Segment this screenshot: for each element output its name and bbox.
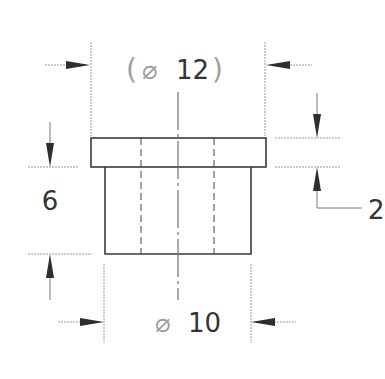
diameter-symbol: ⌀ [142,55,158,85]
arrow-left-icon [266,61,290,69]
arrow-down-icon [46,143,54,167]
flange-diameter-value: 12 [176,55,209,85]
open-paren: ( [126,53,137,86]
leader-line [317,190,362,208]
body-height-value: 6 [42,186,59,216]
arrow-left-icon [251,318,275,326]
arrow-right-icon [80,318,104,326]
close-paren: ) [212,53,223,86]
body-diameter-value: 10 [188,308,221,338]
arrow-down-icon [313,114,321,138]
arrow-right-icon [66,61,90,69]
arrow-up-icon [46,254,54,278]
dimension-body-diameter: ⌀ 10 [58,264,296,343]
diameter-symbol: ⌀ [155,308,171,338]
arrow-up-icon [313,167,321,191]
dimension-flange-thickness: 2 [275,93,385,225]
flange-thickness-value: 2 [368,195,385,225]
technical-drawing: ( ⌀ 12 ) 6 2 ⌀ 10 [0,0,385,379]
dimension-body-height: 6 [28,122,92,300]
